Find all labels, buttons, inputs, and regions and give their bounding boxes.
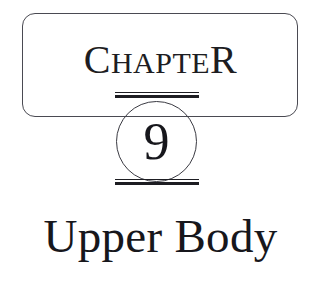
rule-thin-line [115, 92, 199, 93]
chapter-number-value: 9 [116, 101, 197, 182]
rule-thick-line [115, 95, 199, 98]
chapter-label-trailing-cap: R [210, 37, 237, 82]
rule-thick-line [115, 182, 199, 185]
chapter-opener-page: CHAPTER 9 Upper Body [0, 0, 321, 291]
double-rule-top [115, 92, 199, 99]
chapter-title: Upper Body [0, 213, 321, 260]
chapter-label-leading-cap: C [84, 37, 111, 82]
double-rule-bottom [115, 179, 199, 186]
rule-thin-line [115, 179, 199, 180]
chapter-label-small-caps: HAPTE [111, 46, 210, 79]
chapter-label: CHAPTER [0, 40, 321, 80]
